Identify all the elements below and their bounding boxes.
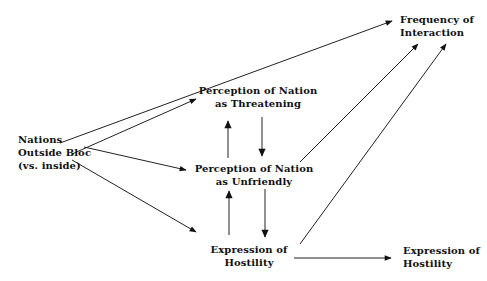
node-line: Outside Bloc — [18, 146, 91, 159]
edge-nations-to-frequency — [60, 21, 392, 143]
edge-hostility-to-frequency — [300, 44, 446, 244]
node-line: Perception of Nation — [192, 162, 316, 175]
node-line: Hostility — [206, 256, 292, 269]
node-expression-of-hostility: Expression of Hostility — [206, 243, 292, 269]
node-line: as Threatening — [196, 97, 320, 110]
node-line: Interaction — [400, 26, 474, 39]
node-nations-outside-bloc: Nations Outside Bloc (vs. inside) — [18, 133, 91, 172]
node-line: as Unfriendly — [192, 175, 316, 188]
node-line: Perception of Nation — [196, 84, 320, 97]
node-line: Expression of — [403, 244, 480, 257]
node-line: Hostility — [403, 257, 480, 270]
path-diagram: Nations Outside Bloc (vs. inside) Freque… — [0, 0, 487, 281]
node-line: Nations — [18, 133, 91, 146]
node-expression-of-hostility-outcome: Expression of Hostility — [403, 244, 480, 270]
node-frequency-of-interaction: Frequency of Interaction — [400, 13, 474, 39]
node-line: Frequency of — [400, 13, 474, 26]
node-perception-threatening: Perception of Nation as Threatening — [196, 84, 320, 110]
node-line: Expression of — [206, 243, 292, 256]
node-perception-unfriendly: Perception of Nation as Unfriendly — [192, 162, 316, 188]
edge-nations-to-unfriendly — [84, 147, 186, 170]
node-line: (vs. inside) — [18, 159, 91, 172]
